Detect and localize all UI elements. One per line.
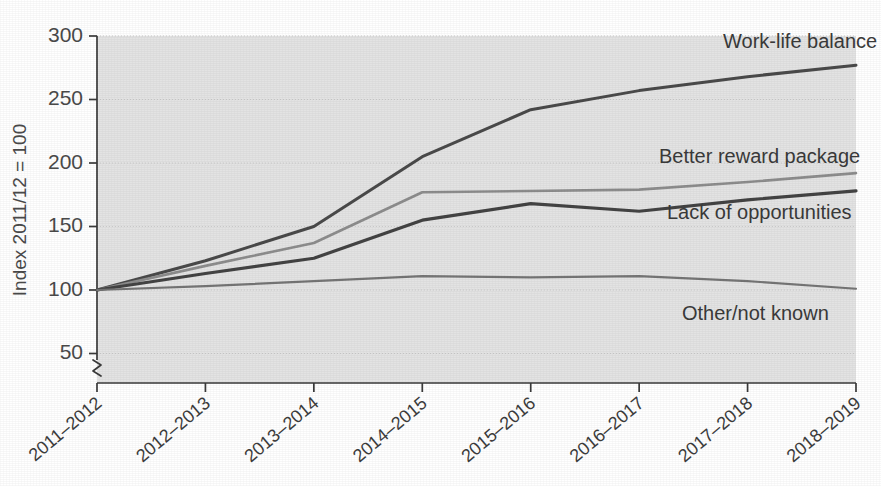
series-label-0: Work-life balance bbox=[723, 30, 877, 52]
series-label-1: Better reward package bbox=[659, 145, 860, 167]
y-tick-label-250: 250 bbox=[48, 86, 83, 109]
series-label-2: Lack of opportunities bbox=[667, 201, 852, 223]
chart-figure: 50100150200250300 2011–20122012–20132013… bbox=[0, 0, 881, 486]
y-axis-title: Index 2011/12 = 100 bbox=[9, 124, 30, 296]
line-chart: 50100150200250300 2011–20122012–20132013… bbox=[0, 0, 881, 486]
y-tick-label-300: 300 bbox=[48, 23, 83, 46]
y-tick-label-200: 200 bbox=[48, 150, 83, 173]
y-tick-label-150: 150 bbox=[48, 213, 83, 236]
y-tick-label-50: 50 bbox=[60, 340, 83, 363]
y-tick-label-100: 100 bbox=[48, 277, 83, 300]
series-label-3: Other/not known bbox=[682, 302, 829, 324]
